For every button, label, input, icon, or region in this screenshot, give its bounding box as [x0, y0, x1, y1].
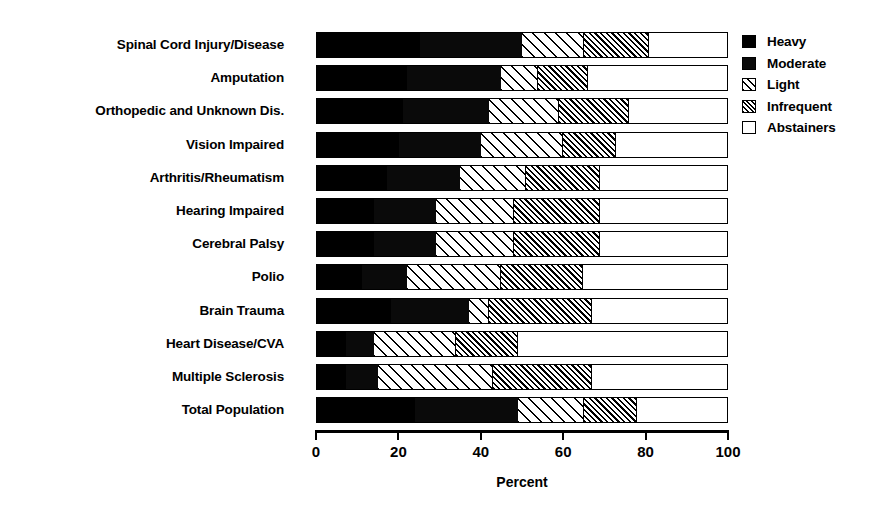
- category-label: Spinal Cord Injury/Disease: [117, 37, 284, 53]
- x-axis-tick-label: 80: [616, 443, 676, 460]
- bar-segment-infrequent: [514, 199, 600, 223]
- bar-segment-heavy: [317, 99, 403, 123]
- bar-segment-abstainers: [518, 332, 727, 356]
- legend-label: Heavy: [767, 34, 806, 49]
- category-label-column: Spinal Cord Injury/DiseaseAmputationOrth…: [0, 30, 296, 430]
- bar-segment-infrequent: [559, 99, 629, 123]
- bar-segment-infrequent: [501, 265, 583, 289]
- bar-row: [316, 298, 728, 324]
- bar-segment-infrequent: [493, 365, 591, 389]
- bar-row: [316, 397, 728, 423]
- legend-swatch-moderate-icon: [742, 57, 756, 70]
- x-axis-tick: [315, 432, 317, 440]
- bar-segment-moderate: [399, 133, 481, 157]
- bar-segment-infrequent: [538, 66, 587, 90]
- category-label: Orthopedic and Unknown Dis.: [95, 103, 284, 119]
- bar-row: [316, 132, 728, 158]
- bar-segment-abstainers: [592, 365, 727, 389]
- bar-segment-light: [436, 232, 514, 256]
- bar-row: [316, 231, 728, 257]
- bar-row: [316, 364, 728, 390]
- bar-segment-heavy: [317, 199, 374, 223]
- bar-segment-moderate: [391, 299, 469, 323]
- bar-segment-moderate: [407, 66, 501, 90]
- bar-segment-light: [378, 365, 493, 389]
- bar-segment-abstainers: [637, 398, 727, 422]
- category-label: Multiple Sclerosis: [172, 369, 284, 385]
- stacked-bar-chart: Spinal Cord Injury/DiseaseAmputationOrth…: [0, 0, 894, 516]
- bar-segment-abstainers: [629, 99, 727, 123]
- bar-segment-infrequent: [514, 232, 600, 256]
- x-axis-tick: [727, 432, 729, 440]
- bar-segment-infrequent: [489, 299, 592, 323]
- bar-segment-heavy: [317, 166, 387, 190]
- x-axis-tick-label: 100: [698, 443, 758, 460]
- category-label: Arthritis/Rheumatism: [150, 170, 284, 186]
- category-label: Cerebral Palsy: [192, 236, 284, 252]
- legend-item: Light: [742, 74, 890, 96]
- bar-segment-abstainers: [592, 299, 727, 323]
- bar-segment-infrequent: [456, 332, 518, 356]
- bar-segment-abstainers: [600, 166, 727, 190]
- bar-segment-light: [374, 332, 456, 356]
- bar-segment-infrequent: [526, 166, 600, 190]
- bar-segment-heavy: [317, 332, 346, 356]
- bar-segment-infrequent: [584, 33, 650, 57]
- bar-segment-infrequent: [563, 133, 616, 157]
- legend: HeavyModerateLightInfrequentAbstainers: [742, 31, 890, 139]
- legend-label: Light: [767, 77, 800, 92]
- bar-segment-heavy: [317, 299, 391, 323]
- x-axis-title: Percent: [316, 474, 728, 490]
- legend-item: Moderate: [742, 53, 890, 75]
- legend-label: Moderate: [767, 56, 826, 71]
- bar-segment-heavy: [317, 365, 346, 389]
- category-label: Amputation: [211, 70, 285, 86]
- bar-segment-light: [469, 299, 490, 323]
- legend-label: Infrequent: [767, 99, 832, 114]
- category-label: Brain Trauma: [200, 303, 284, 319]
- bar-segment-light: [460, 166, 526, 190]
- plot-area: [316, 30, 728, 430]
- bar-segment-heavy: [317, 265, 362, 289]
- bar-row: [316, 198, 728, 224]
- bar-row: [316, 98, 728, 124]
- x-axis-tick-label: 40: [451, 443, 511, 460]
- bar-segment-heavy: [317, 232, 374, 256]
- bar-segment-light: [501, 66, 538, 90]
- bar-segment-moderate: [362, 265, 407, 289]
- bar-segment-light: [489, 99, 559, 123]
- bar-segment-moderate: [415, 398, 518, 422]
- bar-segment-light: [407, 265, 501, 289]
- bar-row: [316, 331, 728, 357]
- legend-swatch-infrequent-icon: [742, 100, 756, 113]
- bar-segment-abstainers: [616, 133, 727, 157]
- legend-swatch-light-icon: [742, 78, 756, 91]
- legend-item: Abstainers: [742, 117, 890, 139]
- bar-segment-infrequent: [584, 398, 637, 422]
- legend-item: Infrequent: [742, 96, 890, 118]
- legend-item: Heavy: [742, 31, 890, 53]
- x-axis-tick-label: 0: [286, 443, 346, 460]
- x-axis-tick-label: 60: [533, 443, 593, 460]
- bar-segment-light: [522, 33, 584, 57]
- category-label: Total Population: [182, 402, 284, 418]
- legend-label: Abstainers: [767, 120, 836, 135]
- legend-swatch-heavy-icon: [742, 35, 756, 48]
- bar-segment-abstainers: [583, 265, 727, 289]
- bar-segment-light: [436, 199, 514, 223]
- x-axis-tick: [645, 432, 647, 440]
- bar-segment-moderate: [403, 99, 489, 123]
- bar-segment-moderate: [387, 166, 461, 190]
- category-label: Polio: [252, 269, 284, 285]
- bar-segment-heavy: [317, 66, 407, 90]
- bar-segment-abstainers: [649, 33, 727, 57]
- x-axis-tick-label: 20: [368, 443, 428, 460]
- bar-segment-heavy: [317, 133, 399, 157]
- bar-segment-moderate: [346, 332, 375, 356]
- bar-row: [316, 65, 728, 91]
- bar-segment-heavy: [317, 398, 415, 422]
- bar-segment-moderate: [420, 33, 523, 57]
- bar-segment-moderate: [374, 232, 436, 256]
- x-axis-line: [315, 430, 729, 433]
- category-label: Heart Disease/CVA: [166, 336, 284, 352]
